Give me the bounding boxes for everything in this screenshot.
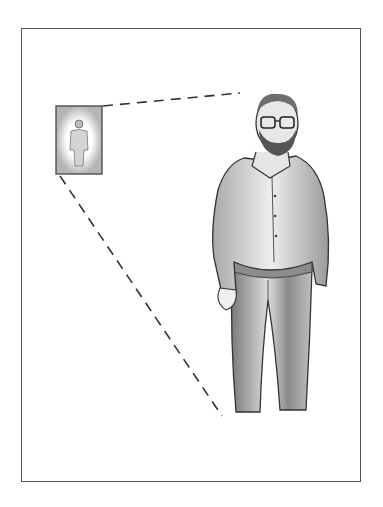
thumbnail-picture bbox=[56, 106, 102, 174]
pencil-illustration bbox=[0, 0, 383, 507]
man-figure bbox=[213, 94, 329, 412]
perspective-line-top bbox=[103, 93, 240, 106]
perspective-line-bottom bbox=[60, 176, 222, 416]
